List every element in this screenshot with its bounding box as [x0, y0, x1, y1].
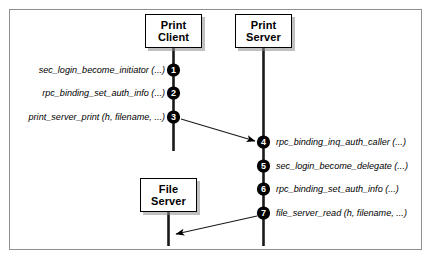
message-arrow-3-to-4	[181, 119, 255, 141]
step-marker-3: 3	[167, 110, 180, 123]
step-label-6: rpc_binding_set_auth_info (...)	[276, 185, 399, 194]
step-label-5: sec_login_become_delegate (...)	[276, 162, 408, 171]
step-marker-5-number: 5	[261, 161, 266, 171]
participant-print-client-line1: Print	[161, 19, 187, 31]
step-label-4: rpc_binding_inq_auth_caller (...)	[276, 138, 406, 147]
step-marker-2: 2	[167, 86, 180, 99]
participant-file-server-line2: Server	[151, 195, 186, 207]
step-marker-4-number: 4	[261, 137, 266, 147]
step-marker-4: 4	[257, 135, 270, 148]
step-label-7: file_server_read (h, filename, ...)	[276, 209, 407, 218]
step-label-3: print_server_print (h, filename, ...)	[29, 113, 165, 122]
step-marker-1: 1	[167, 63, 180, 76]
step-label-1: sec_login_become_initiator (...)	[39, 66, 165, 75]
step-marker-7: 7	[257, 206, 270, 219]
step-marker-1-number: 1	[171, 65, 176, 75]
step-marker-6: 6	[257, 182, 270, 195]
step-label-2: rpc_binding_set_auth_info (...)	[42, 89, 165, 98]
participant-box-print-client: Print Client	[145, 14, 202, 48]
diagram-canvas: 1 2 3 4 5 6 7	[0, 0, 435, 265]
participant-box-file-server: File Server	[140, 178, 197, 212]
participant-print-server-line1: Print	[251, 19, 277, 31]
participant-print-server-line2: Server	[246, 31, 281, 43]
participant-print-client-line2: Client	[158, 31, 189, 43]
step-marker-7-number: 7	[261, 208, 266, 218]
participant-file-server-line1: File	[159, 183, 178, 195]
step-marker-6-number: 6	[261, 184, 266, 194]
step-marker-5: 5	[257, 159, 270, 172]
sequence-diagram-figure: 1 2 3 4 5 6 7 Print Client	[0, 0, 435, 265]
participant-box-print-server: Print Server	[235, 14, 292, 48]
step-marker-3-number: 3	[171, 112, 176, 122]
step-marker-2-number: 2	[171, 88, 176, 98]
message-arrow-7-to-file-server	[176, 216, 257, 234]
